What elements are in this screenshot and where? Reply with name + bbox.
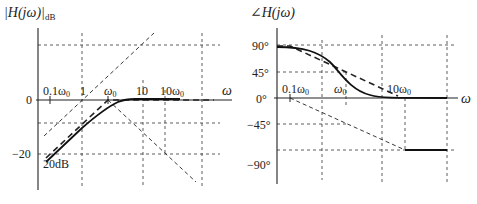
phase-plot: ∠H(jω) ω 90° 45° 0° −45° −90° 0.1ω0 ω0 1…: [247, 5, 471, 184]
mag-tick-0: 0: [26, 93, 32, 107]
mag-xtick-10w0: 10ω0: [160, 84, 184, 99]
phase-tick-minus45: −45°: [247, 118, 271, 132]
magnitude-curve: [46, 99, 180, 162]
magnitude-omega-label: ω: [222, 83, 232, 98]
phase-tick-45: 45°: [252, 66, 269, 80]
phase-xtick-w0: ω0: [334, 82, 346, 97]
mag-xtick-1: 1: [80, 84, 86, 98]
mag-xtick-0.1w0: 0.1ω0: [43, 84, 70, 99]
minus20-slope-line: [108, 100, 196, 182]
phase-tick-0: 0°: [256, 92, 267, 106]
phase-title: ∠H(jω): [250, 5, 295, 21]
magnitude-asymptote: [46, 100, 214, 158]
phase-xtick-0.1w0: 0.1ω0: [282, 82, 309, 97]
magnitude-plot: |H(jω)|dB ω 0 −20 20dB 0.1ω0 1 ω0 10 10ω…: [4, 5, 232, 190]
phase-omega-label: ω: [461, 91, 471, 106]
mag-xtick-w0: ω0: [104, 84, 116, 99]
mag-xtick-10: 10: [136, 84, 148, 98]
phase-tick-90: 90°: [252, 39, 269, 53]
mag-tick-minus20: −20: [12, 147, 31, 161]
phase-xtick-10w0: 10ω0: [387, 82, 411, 97]
annotation-20db: 20dB: [43, 157, 69, 171]
phase-grid: [277, 35, 455, 182]
phase-tick-minus90: −90°: [247, 158, 271, 172]
magnitude-title: |H(jω)|dB: [4, 5, 55, 22]
bode-plot-figure: |H(jω)|dB ω 0 −20 20dB 0.1ω0 1 ω0 10 10ω…: [0, 0, 477, 204]
